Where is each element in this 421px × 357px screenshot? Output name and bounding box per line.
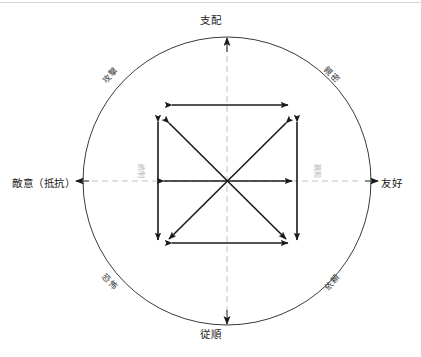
interpersonal-circumplex-diagram: 支配 従順 敵意（抵抗） 友好 攻撃 親密 恐怖 依頼 統制 親和 <box>0 0 421 357</box>
label-submission: 従順 <box>0 326 421 341</box>
axis-note-affiliation: 親和 <box>313 164 323 179</box>
label-hostility: 敵意（抵抗） <box>12 175 75 190</box>
axis-note-control: 統制 <box>137 164 147 179</box>
label-dominance: 支配 <box>0 12 421 27</box>
label-friendliness: 友好 <box>381 175 402 190</box>
